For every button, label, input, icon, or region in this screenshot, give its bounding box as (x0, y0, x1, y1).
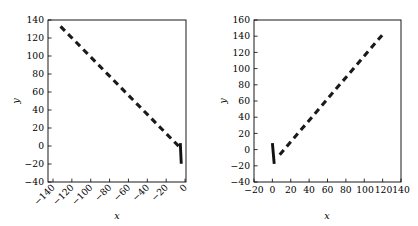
y-tick-label: 60 (238, 95, 250, 106)
x-tick-label: 140 (392, 184, 410, 195)
y-axis-title-right: y (217, 98, 228, 105)
y-tick-label: 80 (32, 68, 44, 79)
y-tick-label: −20 (25, 158, 45, 169)
x-tick-label: −80 (92, 182, 114, 204)
y-tick-label: −20 (231, 160, 251, 171)
x-tick-label: 60 (322, 184, 334, 195)
x-axis-ticks-right (254, 179, 401, 182)
figure-canvas: −40 −20 0 20 40 60 80 100 120 140 −140 −… (0, 0, 418, 226)
y-axis-ticks-right (254, 20, 258, 182)
x-tick-label: 100 (356, 184, 374, 195)
series-trend-right (280, 32, 385, 154)
axes-frame-left (48, 20, 186, 182)
y-tick-label: 160 (232, 14, 250, 25)
y-tick-label: 20 (238, 128, 250, 139)
y-axis-ticks-left (48, 20, 52, 182)
y-tick-labels-right: −40 −20 0 20 40 60 80 100 120 140 160 (231, 14, 251, 187)
chart-panel-right: −40 −20 0 20 40 60 80 100 120 140 160 −2… (209, 0, 418, 226)
y-tick-label: 60 (32, 86, 44, 97)
y-tick-label: 140 (26, 14, 44, 25)
series-vertical-marker-right (272, 143, 274, 164)
x-tick-label: −100 (69, 182, 95, 208)
x-tick-label: 120 (375, 184, 393, 195)
x-tick-label: 0 (177, 182, 189, 194)
y-tick-label: 100 (232, 63, 250, 74)
plot-svg-right: −40 −20 0 20 40 60 80 100 120 140 160 −2… (209, 0, 418, 226)
x-tick-label: 20 (285, 184, 297, 195)
x-tick-label: −40 (130, 182, 152, 204)
y-tick-label: −40 (25, 176, 45, 187)
x-tick-label: −20 (149, 182, 171, 204)
chart-panel-left: −40 −20 0 20 40 60 80 100 120 140 −140 −… (0, 0, 209, 226)
plot-svg-left: −40 −20 0 20 40 60 80 100 120 140 −140 −… (0, 0, 209, 226)
axes-frame-right (254, 20, 401, 182)
y-tick-label: 140 (232, 30, 250, 41)
y-axis-title-left: y (10, 98, 21, 105)
y-tick-label: 80 (238, 79, 250, 90)
y-tick-label: 40 (32, 104, 44, 115)
y-tick-labels-left: −40 −20 0 20 40 60 80 100 120 140 (25, 14, 45, 187)
y-tick-label: 20 (32, 122, 44, 133)
x-axis-ticks-left (53, 179, 185, 182)
x-tick-label: −20 (244, 184, 264, 195)
x-tick-label: 80 (340, 184, 352, 195)
x-axis-title-right: x (324, 210, 330, 221)
y-tick-label: 120 (26, 32, 44, 43)
y-tick-label: 40 (238, 111, 250, 122)
y-tick-label: 100 (26, 50, 44, 61)
x-axis-title-left: x (114, 210, 120, 221)
y-tick-label: 0 (244, 144, 250, 155)
x-tick-label: 40 (303, 184, 315, 195)
series-vertical-marker-left (180, 143, 181, 164)
x-tick-label: 0 (269, 184, 275, 195)
y-tick-label: 0 (38, 140, 44, 151)
x-tick-labels-right: −20 0 20 40 60 80 100 120 140 (244, 184, 410, 195)
y-tick-label: 120 (232, 47, 250, 58)
x-tick-labels-left: −140 −120 −100 −80 −60 −40 −20 0 (31, 182, 189, 208)
series-trend-left (61, 26, 182, 148)
x-tick-label: −60 (111, 182, 133, 204)
